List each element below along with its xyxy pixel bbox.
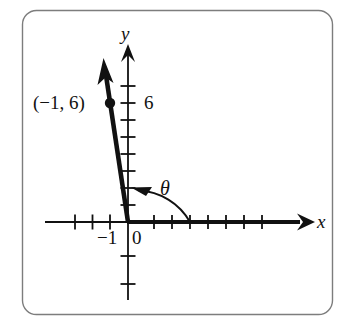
angle-theta-label: θ [160, 178, 170, 198]
coordinate-plane-graphic [0, 0, 341, 324]
x-axis-label: x [317, 212, 325, 231]
y-axis-tick-label-6: 6 [144, 93, 154, 112]
origin-label: 0 [132, 228, 142, 247]
y-axis-label: y [121, 24, 129, 43]
point-marker [105, 98, 115, 108]
figure-container: (−1, 6) 6 −1 0 x y θ [0, 0, 341, 324]
point-coordinate-label: (−1, 6) [33, 93, 85, 112]
x-axis-tick-label-neg1: −1 [97, 228, 117, 247]
figure-border [23, 11, 333, 315]
